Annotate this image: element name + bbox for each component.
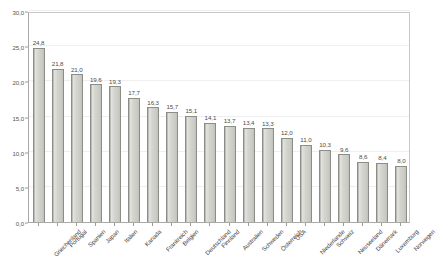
bar (281, 138, 293, 222)
bar-group: 14,1 (204, 11, 216, 222)
bar-group: 21,8 (52, 11, 64, 222)
y-axis-tick-label: 0,0 (0, 220, 24, 227)
bar-value-label: 21,8 (52, 60, 64, 67)
bar (71, 74, 83, 222)
x-axis-tick-mark (152, 223, 153, 226)
x-axis-tick-mark (286, 223, 287, 226)
bar (262, 128, 274, 222)
bar-group: 17,7 (128, 11, 140, 222)
bar-value-label: 13,7 (224, 117, 236, 124)
bar (128, 98, 140, 222)
x-axis-tick-mark (248, 223, 249, 226)
x-axis-tick-mark (209, 223, 210, 226)
bar-series: 24,821,821,019,619,317,716,315,715,114,1… (29, 13, 409, 222)
bar-group: 13,3 (262, 11, 274, 222)
bar-value-label: 15,1 (186, 107, 198, 114)
bar-value-label: 11,0 (300, 136, 311, 143)
y-axis-tick-mark (25, 47, 28, 48)
x-axis-tick-mark (76, 223, 77, 226)
bar-value-label: 17,7 (128, 89, 140, 96)
bar-group: 11,0 (300, 11, 312, 222)
bar-group: 15,7 (166, 11, 178, 222)
bar-group: 21,0 (71, 11, 83, 222)
bar-group: 8,0 (395, 11, 407, 222)
x-axis-tick-mark (38, 223, 39, 226)
x-axis-tick-mark (267, 223, 268, 226)
bar-value-label: 19,6 (90, 76, 102, 83)
y-axis-tick-label: 30,0 (0, 9, 24, 16)
bar (204, 123, 216, 222)
bar-group: 13,4 (243, 11, 255, 222)
y-axis-tick-mark (25, 117, 28, 118)
bar (185, 116, 197, 222)
x-axis-tick-mark (324, 223, 325, 226)
bar (33, 48, 45, 222)
bar-value-label: 8,6 (359, 153, 367, 160)
x-axis-tick-mark (190, 223, 191, 226)
bar-value-label: 13,3 (262, 120, 274, 127)
x-axis-tick-mark (95, 223, 96, 226)
y-axis-tick-label: 10,0 (0, 149, 24, 156)
x-axis-tick-mark (171, 223, 172, 226)
x-axis-tick-mark (362, 223, 363, 226)
bar-value-label: 8,0 (397, 157, 405, 164)
bar-value-label: 15,7 (166, 103, 178, 110)
bar (300, 145, 312, 222)
y-axis-tick-label: 5,0 (0, 184, 24, 191)
bar-group: 12,0 (281, 11, 293, 222)
bar (166, 112, 178, 222)
x-axis-tick-label: Kanada (143, 228, 162, 247)
bar-value-label: 16,3 (147, 99, 159, 106)
bar (109, 86, 121, 222)
bar-value-label: 21,0 (71, 66, 83, 73)
x-axis-tick-mark (229, 223, 230, 226)
x-axis-tick-label: Japan (104, 228, 120, 244)
y-axis-tick-label: 20,0 (0, 79, 24, 86)
y-axis-tick-mark (25, 82, 28, 83)
y-axis-tick-mark (25, 223, 28, 224)
y-axis-tick-mark (25, 152, 28, 153)
bar-value-label: 14,1 (205, 114, 217, 121)
bar-group: 19,6 (90, 11, 102, 222)
bar-value-label: 9,6 (340, 146, 348, 153)
bar-value-label: 24,8 (33, 39, 45, 46)
bar-group: 8,4 (376, 11, 388, 222)
y-axis-tick-mark (25, 187, 28, 188)
x-axis-tick-mark (305, 223, 306, 226)
x-axis-tick-label: Italien (122, 228, 138, 244)
bar (395, 166, 407, 222)
x-axis-tick-mark (381, 223, 382, 226)
bar-group: 15,1 (185, 11, 197, 222)
bar (52, 69, 64, 222)
bar-group: 10,3 (319, 11, 331, 222)
bar (243, 128, 255, 222)
bar-group: 19,3 (109, 11, 121, 222)
gridline (29, 10, 409, 11)
bar (319, 150, 331, 222)
x-axis-tick-mark (133, 223, 134, 226)
bar (376, 163, 388, 222)
bar-group: 8,6 (357, 11, 369, 222)
bar (357, 162, 369, 222)
bar-group: 16,3 (147, 11, 159, 222)
bar-value-label: 12,0 (281, 129, 293, 136)
bar-group: 13,7 (224, 11, 236, 222)
bar-value-label: 10,3 (319, 141, 331, 148)
bar (338, 154, 350, 222)
x-axis-tick-mark (114, 223, 115, 226)
bar-value-label: 8,4 (378, 154, 386, 161)
y-axis-tick-mark (25, 12, 28, 13)
plot-area: 24,821,821,019,619,317,716,315,715,114,1… (28, 12, 410, 223)
y-axis-tick-label: 15,0 (0, 114, 24, 121)
bar-group: 24,8 (33, 11, 45, 222)
x-axis-tick-mark (57, 223, 58, 226)
x-axis-tick-mark (400, 223, 401, 226)
bar-value-label: 13,4 (243, 119, 255, 126)
x-axis-tick-mark (343, 223, 344, 226)
bar-group: 9,6 (338, 11, 350, 222)
bar (147, 107, 159, 222)
y-axis-tick-label: 25,0 (0, 44, 24, 51)
bar (90, 84, 102, 222)
bar (224, 126, 236, 222)
